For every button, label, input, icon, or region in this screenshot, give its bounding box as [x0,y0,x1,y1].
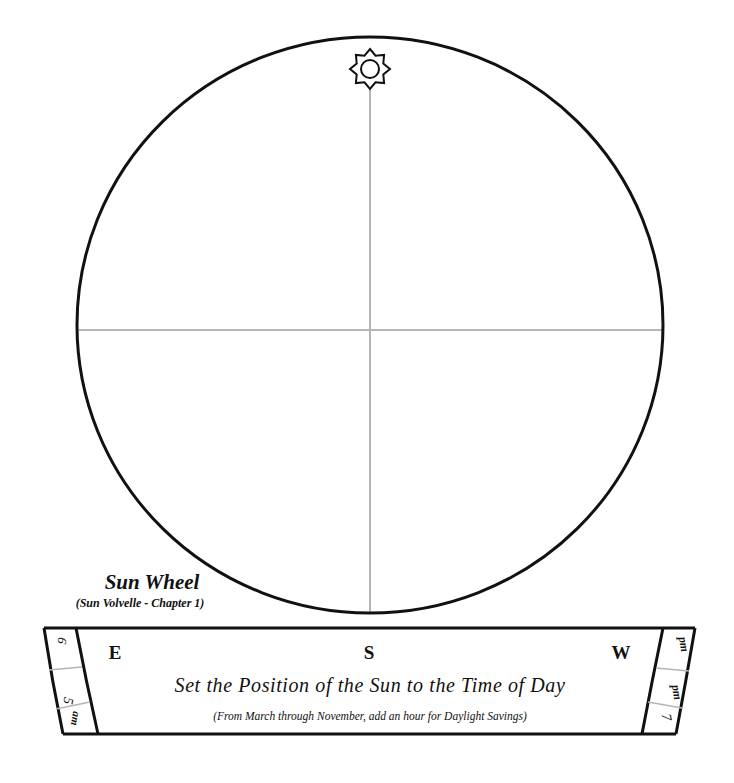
right-tab-top-label: pm [676,635,693,654]
caption-subtitle: (Sun Volvelle - Chapter 1) [76,596,205,610]
south-label: S [364,642,375,663]
sun-star-icon[interactable] [350,49,390,89]
left-tab-hour-label: 5 [60,696,76,705]
west-label: W [612,642,631,663]
left-tab-top-label: 6 [54,636,70,645]
right-tab-hour-label: 7 [658,712,674,722]
right-tab-period-label: pm [669,683,686,702]
left-tab-period-label: am [69,711,83,727]
banner-note: (From March through November, add an hou… [213,710,527,723]
east-label: E [109,642,122,663]
caption-title: Sun Wheel [105,570,200,594]
sun-wheel-diagram: 6 5 am pm pm 7 E S W Set the Position of… [0,0,734,783]
left-tab-outer-edge [44,628,63,734]
banner-heading: Set the Position of the Sun to the Time … [175,674,566,697]
